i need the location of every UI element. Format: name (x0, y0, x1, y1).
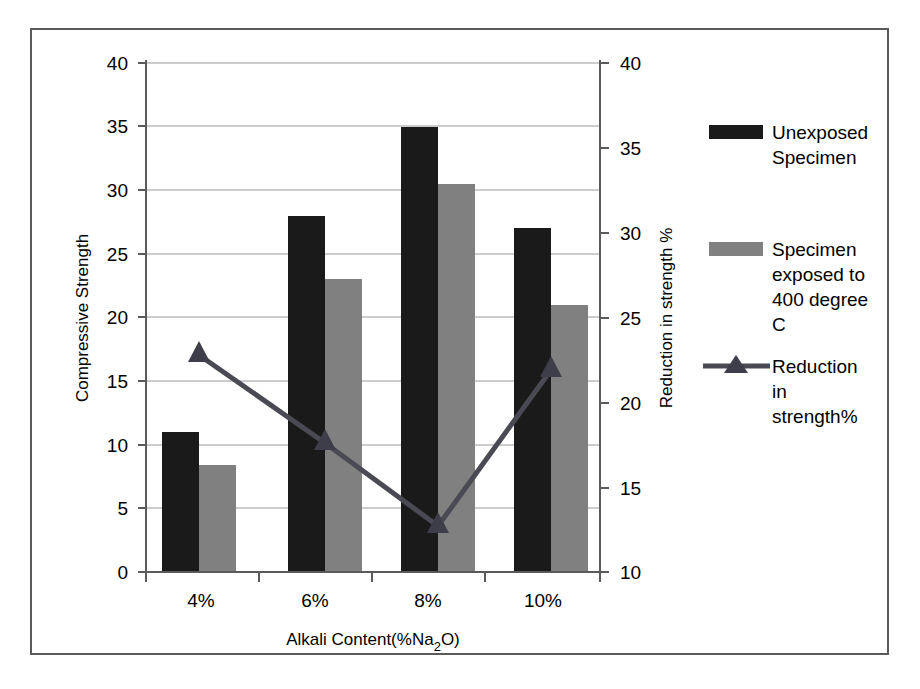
right-tick-label-15: 15 (620, 478, 641, 499)
legend-label-exposed-line1: Specimen (772, 239, 857, 260)
bar-exposed-8pct (438, 184, 475, 572)
legend-label-reduction-line2: in (772, 381, 787, 402)
legend-item-exposed[interactable]: Specimen exposed to 400 degree C (709, 239, 868, 335)
right-tick-label-40: 40 (620, 53, 641, 74)
category-label-10pct: 10% (524, 590, 562, 611)
x-axis-title-post: O) (441, 630, 460, 649)
right-tick-labels: 40 35 30 25 20 15 10 (620, 53, 641, 583)
left-tick-label-15: 15 (107, 371, 128, 392)
reduction-marker-4pct (188, 341, 210, 362)
legend-label-exposed-line3: 400 degree (772, 289, 868, 310)
left-tick-labels: 40 35 30 25 20 15 10 5 0 (107, 53, 128, 583)
combo-chart: 40 35 30 25 20 15 10 5 0 40 35 30 25 20 … (0, 0, 920, 689)
bar-exposed-6pct (325, 279, 362, 572)
left-tick-label-0: 0 (117, 562, 128, 583)
right-tick-label-20: 20 (620, 393, 641, 414)
y-axis-title: Compressive Strength (73, 234, 92, 402)
bar-unexposed-10pct (514, 228, 551, 572)
legend-label-exposed-line2: exposed to (772, 264, 865, 285)
category-label-8pct: 8% (414, 590, 442, 611)
left-tick-label-30: 30 (107, 180, 128, 201)
right-tick-label-35: 35 (620, 138, 641, 159)
left-tick-label-10: 10 (107, 435, 128, 456)
line-series-reduction (188, 341, 562, 533)
legend-label-exposed-line4: C (772, 314, 786, 335)
left-tick-label-40: 40 (107, 53, 128, 74)
legend-label-unexposed-line2: Specimen (772, 147, 857, 168)
x-axis-title-sub: 2 (434, 639, 441, 654)
left-axis-ticks (138, 63, 146, 572)
left-tick-label-5: 5 (117, 498, 128, 519)
bar-exposed-10pct (551, 305, 588, 572)
x-axis-title: Alkali Content(%Na2O) (286, 630, 460, 654)
legend-item-unexposed[interactable]: Unexposed Specimen (709, 122, 868, 168)
bar-unexposed-6pct (288, 216, 325, 572)
category-labels: 4% 6% 8% 10% (187, 590, 562, 611)
gray-bar-swatch (709, 242, 763, 256)
bar-exposed-4pct (199, 465, 236, 572)
legend-label-reduction-line3: strength% (772, 406, 858, 427)
left-tick-label-20: 20 (107, 307, 128, 328)
chart-legend: Unexposed Specimen Specimen exposed to 4… (703, 122, 868, 427)
dark-bar-swatch (709, 125, 763, 139)
category-label-6pct: 6% (301, 590, 329, 611)
right-tick-label-30: 30 (620, 223, 641, 244)
right-tick-label-25: 25 (620, 308, 641, 329)
left-tick-label-25: 25 (107, 244, 128, 265)
x-axis-title-pre: Alkali Content(%Na (286, 630, 434, 649)
right-axis-ticks (600, 63, 609, 572)
y2-axis-title: Reduction in strength % (657, 228, 676, 409)
legend-label-unexposed-line1: Unexposed (772, 122, 868, 143)
category-label-4pct: 4% (187, 590, 215, 611)
bar-unexposed-4pct (162, 432, 199, 572)
left-tick-label-35: 35 (107, 116, 128, 137)
legend-label-reduction-line1: Reduction (772, 356, 858, 377)
chart-figure: 40 35 30 25 20 15 10 5 0 40 35 30 25 20 … (0, 0, 920, 689)
bottom-axis-ticks (146, 572, 600, 582)
legend-item-reduction[interactable]: Reduction in strength% (703, 355, 858, 427)
right-tick-label-10: 10 (620, 562, 641, 583)
